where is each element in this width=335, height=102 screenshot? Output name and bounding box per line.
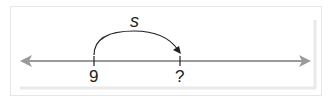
jump-arc <box>94 31 178 55</box>
tick-label-end: ? <box>175 68 184 85</box>
arc-arrowhead-icon <box>173 46 181 54</box>
tick-label-start: 9 <box>89 68 98 85</box>
arc-label: s <box>130 12 139 30</box>
number-line-diagram <box>0 0 335 102</box>
